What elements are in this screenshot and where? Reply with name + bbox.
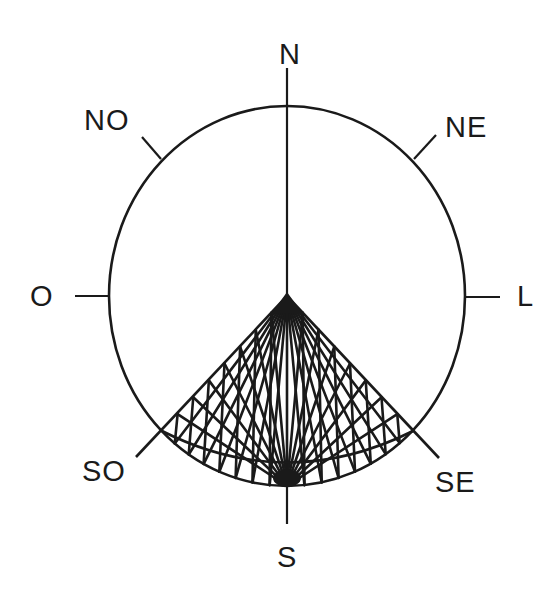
label-north: N <box>279 40 301 69</box>
hatch-line <box>303 313 305 485</box>
apex-fill <box>272 292 302 313</box>
compass-graphic <box>0 0 560 609</box>
south-hub-fill <box>273 469 301 487</box>
label-northeast: NE <box>445 113 487 142</box>
label-northwest: NO <box>84 106 130 135</box>
label-southeast: SE <box>435 468 476 497</box>
label-south: S <box>277 543 297 572</box>
label-west: O <box>30 282 54 311</box>
label-east: L <box>517 282 534 311</box>
hatch-line <box>270 313 272 485</box>
northeast-tick <box>414 135 436 159</box>
northwest-tick <box>142 137 161 159</box>
label-southwest: SO <box>82 457 126 486</box>
